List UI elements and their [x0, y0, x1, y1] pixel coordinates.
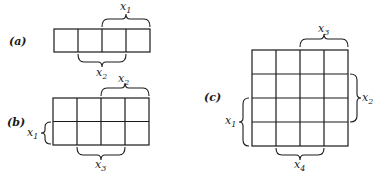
panel-c-var-x3: x3: [318, 22, 329, 37]
panel-b-var-x1: x1: [27, 126, 38, 141]
panel-c-brace-x2: [350, 74, 361, 122]
panel-c-var-x1: x1: [225, 114, 236, 129]
panel-c-grid: [252, 50, 348, 146]
panel-b: (b) x2 x1 x3: [7, 72, 149, 172]
panel-b-var-x3: x3: [95, 158, 106, 172]
panel-b-brace-x1: [41, 122, 51, 144]
panel-a: (a) x1 x2: [9, 0, 150, 81]
panel-c-brace-x1: [239, 98, 249, 146]
panel-a-brace-x1: [102, 14, 150, 27]
panel-c-var-x4: x4: [294, 158, 305, 172]
panel-b-grid: [53, 98, 149, 145]
panel-a-var-x2: x2: [96, 66, 107, 81]
karnaugh-map-figure: (a) x1 x2 (b) x2 x1 x3: [0, 0, 377, 172]
panel-b-var-x2: x2: [118, 72, 129, 87]
panel-c-label: (c): [204, 91, 221, 104]
panel-c: (c) x3 x2 x1 x4: [204, 22, 373, 172]
panel-b-label: (b): [7, 116, 25, 129]
panel-a-var-x1: x1: [120, 0, 131, 15]
panel-a-label: (a): [9, 35, 27, 48]
panel-a-grid: [54, 29, 150, 52]
panel-c-var-x2: x2: [362, 91, 373, 106]
